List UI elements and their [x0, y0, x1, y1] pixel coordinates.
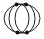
node-dot-top-right [24, 3, 28, 7]
node-dot-top-left [15, 3, 19, 7]
inner-circle-left [9, 4, 29, 33]
node-dot-bottom-left [16, 31, 20, 35]
inner-circle-right [15, 4, 35, 33]
node-dot-bottom-right [25, 31, 29, 35]
overlapping-circles-svg [0, 0, 44, 39]
overlapping-circles-icon [0, 0, 44, 39]
